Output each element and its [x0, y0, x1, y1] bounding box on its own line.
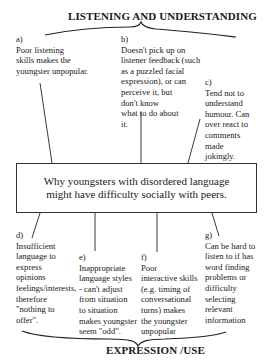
note-line: it. [121, 119, 200, 130]
note-line: express [16, 262, 76, 273]
note-line: word finding [205, 262, 255, 273]
top-heading: LISTENING AND UNDERSTANDING [68, 10, 257, 22]
note-f: f) Poor interactive skills (e.g. timing … [141, 252, 198, 337]
note-line: difficulty [205, 283, 255, 294]
central-line-2: might have difficulty socially with peer… [46, 188, 227, 202]
note-a: a) Poor listening skills makes the young… [16, 34, 89, 76]
note-line: turns) makes [141, 305, 198, 316]
note-line: (e.g. timing of [141, 284, 198, 295]
note-line: - can't adjust [79, 284, 137, 295]
note-line: "nothing to [16, 304, 76, 315]
note-line: expression), or can [121, 76, 200, 87]
note-line: youngster unpopular. [16, 66, 89, 77]
note-line: jokingly. [205, 151, 249, 162]
note-line: skills makes the [16, 55, 89, 66]
central-topic-box: Why youngsters with disordered language … [16, 163, 257, 213]
note-line: made [205, 141, 249, 152]
note-line: don't know [121, 98, 200, 109]
note-line: as a puzzled facial [121, 66, 200, 77]
note-line: language styles [79, 273, 137, 284]
note-label: g) [205, 230, 255, 241]
note-label: f) [141, 252, 198, 263]
note-line: over react to [205, 119, 249, 130]
note-line: what to do about [121, 108, 200, 119]
note-label: d) [16, 230, 76, 241]
note-line: to situation [79, 305, 137, 316]
note-line: language to [16, 251, 76, 262]
note-line: the youngster [141, 316, 198, 327]
note-line: unpopular [141, 326, 198, 337]
note-c: c) Tend not to understand humour. Can ov… [205, 77, 249, 162]
note-line: conversational [141, 294, 198, 305]
note-line: makes youngster [79, 316, 137, 327]
note-line: feelings/interests, [16, 283, 76, 294]
note-line: Insufficient [16, 241, 76, 252]
note-label: a) [16, 34, 89, 45]
note-line: Doesn't pick up on [121, 45, 200, 56]
note-line: perceive it, but [121, 87, 200, 98]
bottom-heading: EXPRESSION /USE [106, 344, 205, 356]
note-line: Inappropriate [79, 263, 137, 274]
note-line: problems or [205, 272, 255, 283]
note-line: Tend not to [205, 88, 249, 99]
note-line: listen to if has [205, 251, 255, 262]
note-line: from situation [79, 294, 137, 305]
note-line: offer". [16, 315, 76, 326]
note-line: therefore [16, 294, 76, 305]
note-g: g) Can be hard to listen to if has word … [205, 230, 255, 325]
note-line: opinions [16, 272, 76, 283]
note-line: seem "odd". [79, 326, 137, 337]
note-line: interactive skills [141, 273, 198, 284]
note-line: selecting [205, 294, 255, 305]
note-line: understand [205, 98, 249, 109]
note-label: c) [205, 77, 249, 88]
note-line: information [205, 315, 255, 326]
connector-a [40, 83, 52, 163]
note-line: Poor [141, 263, 198, 274]
note-line: Poor listening [16, 45, 89, 56]
note-label: b) [121, 34, 200, 45]
note-label: e) [79, 252, 137, 263]
note-d: d) Insufficient language to express opin… [16, 230, 76, 325]
note-line: Can be hard to [205, 241, 255, 252]
note-line: humour. Can [205, 109, 249, 120]
note-line: comments [205, 130, 249, 141]
central-line-1: Why youngsters with disordered language [44, 175, 230, 189]
note-b: b) Doesn't pick up on listener feedback … [121, 34, 200, 129]
note-e: e) Inappropriate language styles - can't… [79, 252, 137, 337]
note-line: listener feedback (such [121, 55, 200, 66]
note-line: relevant [205, 304, 255, 315]
